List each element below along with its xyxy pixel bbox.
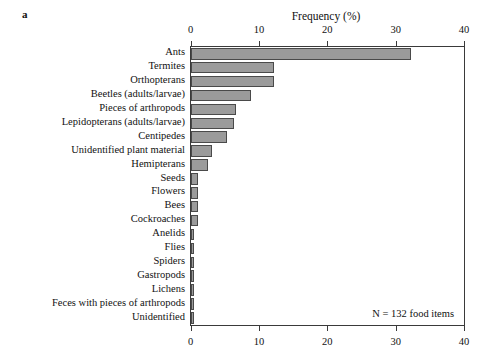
bar [191,215,199,227]
x-axis-tick-label-top: 10 [239,24,279,35]
bar [191,159,208,171]
bar [191,90,252,102]
x-axis-tick-top [327,41,328,46]
bar [191,173,199,185]
x-axis-tick-bottom [191,326,192,331]
x-axis-tick-label-bottom: 0 [171,336,211,347]
x-axis-tick-top [191,41,192,46]
category-label: Ants [0,46,185,57]
x-axis-tick-label-bottom: 20 [307,336,347,347]
category-label: Bees [0,199,185,210]
x-axis-tick-label-top: 20 [307,24,347,35]
bar [191,48,411,60]
category-label: Termites [0,60,185,71]
x-axis-tick-top [259,41,260,46]
bar [191,312,195,324]
x-axis-tick-label-top: 0 [171,24,211,35]
x-axis-tick-bottom [396,326,397,331]
bar [191,201,199,213]
x-axis-tick-label-bottom: 40 [444,336,484,347]
category-label: Cockroaches [0,213,185,224]
category-label: Spiders [0,255,185,266]
x-axis-tick-bottom [259,326,260,331]
chart-axis-title: Frequency (%) [189,10,463,22]
bar [191,118,234,130]
bar [191,243,195,255]
category-label: Hemipterans [0,158,185,169]
x-axis-tick-bottom [464,326,465,331]
bar [191,76,274,88]
category-label: Seeds [0,172,185,183]
category-label: Feces with pieces of arthropods [0,297,185,308]
category-label: Anelids [0,227,185,238]
bar [191,298,195,310]
category-label: Beetles (adults/larvae) [0,88,185,99]
bar [191,270,195,282]
x-axis-tick-label-top: 40 [444,24,484,35]
x-axis-tick-top [396,41,397,46]
x-axis-tick-label-bottom: 10 [239,336,279,347]
bar [191,131,228,143]
panel-letter: a [22,8,28,20]
x-axis-tick-bottom [327,326,328,331]
category-label: Centipedes [0,130,185,141]
sample-size-annotation: N = 132 food items [372,308,454,319]
category-label: Orthopterans [0,74,185,85]
x-axis-tick-label-top: 30 [376,24,416,35]
category-label: Pieces of arthropods [0,102,185,113]
bar [191,104,237,116]
category-label: Flies [0,241,185,252]
bar [191,62,274,74]
bar [191,284,195,296]
bar [191,145,213,157]
category-label: Lepidopterans (adults/larvae) [0,116,185,127]
category-axis-labels: AntsTermitesOrthopteransBeetles (adults/… [0,46,185,324]
x-axis-tick-top [464,41,465,46]
category-label: Unidentified [0,311,185,322]
bar [191,257,195,269]
category-label: Unidentified plant material [0,144,185,155]
x-axis-tick-label-bottom: 30 [376,336,416,347]
category-label: Gastropods [0,269,185,280]
category-label: Lichens [0,283,185,294]
plot-area: 001010202030304040 N = 132 food items [190,46,466,326]
category-label: Flowers [0,185,185,196]
bar [191,187,199,199]
bar [191,229,195,241]
